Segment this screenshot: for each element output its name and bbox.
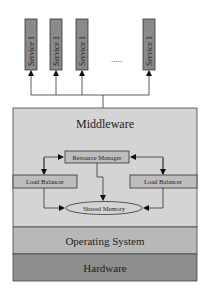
service-box-n: Service 1 — [143, 19, 155, 70]
service-label-1: Service 1 — [27, 36, 36, 66]
service-box-3: Service 1 — [76, 19, 88, 70]
shared-memory-label: Shared Memory — [83, 205, 126, 212]
hardware-label: Hardware — [83, 262, 126, 274]
hardware-layer: Hardware — [13, 254, 197, 281]
operating-system-layer: Operating System — [13, 227, 197, 254]
shared-memory-ellipse: Shared Memory — [66, 202, 142, 215]
load-balancer-right-label: Load Balancer — [144, 178, 183, 185]
operating-system-label: Operating System — [65, 235, 145, 247]
ellipsis-text: ..... — [111, 54, 122, 64]
load-balancer-right-box: Load Balancer — [130, 175, 197, 188]
service-label-2: Service 1 — [52, 36, 61, 66]
middleware-label: Middleware — [76, 117, 134, 131]
architecture-diagram: Service 1 Service 1 Service 1 ..... Serv… — [0, 0, 206, 294]
service-bus-connector — [31, 71, 149, 108]
load-balancer-left-box: Load Balancer — [13, 175, 77, 188]
service-box-2: Service 1 — [50, 19, 62, 70]
resource-manager-label: Resource Manager — [73, 154, 123, 161]
service-label-n: Service 1 — [145, 36, 154, 66]
resource-manager-box: Resource Manager — [65, 151, 129, 163]
service-label-3: Service 1 — [78, 36, 87, 66]
load-balancer-left-label: Load Balancer — [26, 178, 65, 185]
service-box-1: Service 1 — [25, 19, 37, 70]
